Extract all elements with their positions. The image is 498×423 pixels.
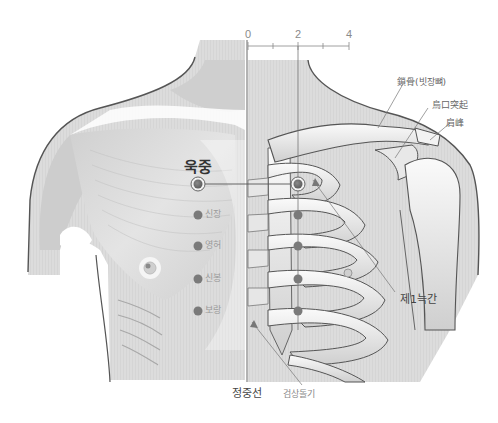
point-label-shinjang: 신장 [205,210,221,219]
label-xiphoid: 검상돌기 [283,390,315,399]
point-label-yuzhong: 욱중 [184,160,212,175]
point-label-shinbong: 신봉 [205,274,221,283]
annotation-clavicle: 鎖骨(빗장뼈) [397,78,446,87]
annotation-coracoid: 烏口突起 [432,101,468,110]
label-midline: 정중선 [232,388,262,399]
acupoint-diagram: 0 2 4 욱중 신장 영허 신봉 보랑 鎖骨(빗장뼈) 烏口突起 肩峰 제1늑… [0,0,498,423]
scale-tick-2: 2 [295,28,301,40]
scale-bar [248,42,349,50]
point-label-borang: 보랑 [205,306,221,315]
anatomy-illustration [0,0,498,423]
scale-tick-0: 0 [245,28,251,40]
point-label-yeongheo: 영허 [205,241,221,250]
annotation-first-intercostal: 제1늑간 [400,294,437,305]
annotation-acromion: 肩峰 [446,119,464,128]
scale-tick-4: 4 [346,28,352,40]
